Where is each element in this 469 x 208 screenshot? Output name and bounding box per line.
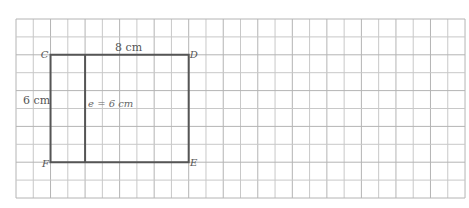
vertex-label-f: F (41, 158, 50, 169)
vertex-label-c: C (41, 49, 49, 60)
inner-segment-label: e = 6 cm (88, 98, 133, 109)
vertex-label-d: D (189, 49, 198, 60)
grid-figure: C D E F 8 cm 6 cm e = 6 cm (0, 0, 469, 208)
left-side-length-label: 6 cm (23, 94, 51, 107)
vertex-label-e: E (189, 157, 198, 168)
top-side-length-label: 8 cm (115, 41, 143, 54)
grid-paper (16, 19, 465, 198)
